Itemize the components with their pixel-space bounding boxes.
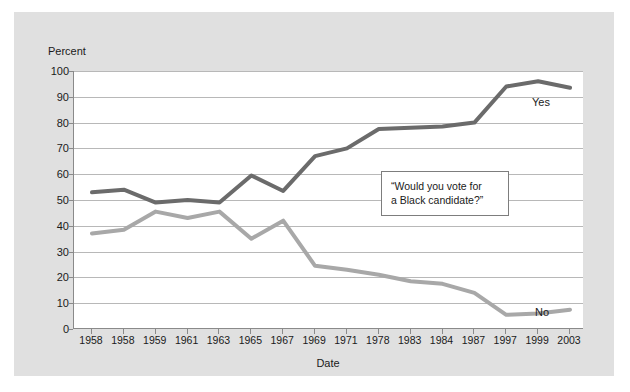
x-axis-tick-mark	[537, 329, 538, 334]
y-axis-tick-label: 100	[41, 65, 69, 77]
series-label-yes: Yes	[532, 96, 550, 108]
y-axis-tick-label: 0	[41, 323, 69, 335]
x-axis-tick-label: 1984	[430, 334, 453, 346]
y-axis-tick-label: 30	[41, 246, 69, 258]
x-axis-tick-label: 1958	[111, 334, 134, 346]
x-axis-tick-mark	[314, 329, 315, 334]
y-axis-tick-label: 10	[41, 297, 69, 309]
x-axis-tick-mark	[505, 329, 506, 334]
x-axis-tick-mark	[473, 329, 474, 334]
y-axis-tick-label: 40	[41, 220, 69, 232]
x-axis-tick-label: 1963	[207, 334, 230, 346]
annotation-line-2: a Black candidate?”	[391, 193, 499, 207]
x-axis-tick-mark	[218, 329, 219, 334]
series-label-no: No	[535, 306, 549, 318]
x-axis-tick-label: 1969	[302, 334, 325, 346]
x-axis-tick-mark	[378, 329, 379, 334]
x-axis-title: Date	[73, 357, 583, 369]
x-axis-tick-mark	[282, 329, 283, 334]
annotation-survey-question: “Would you vote for a Black candidate?”	[381, 171, 509, 216]
x-axis-tick-label: 1978	[366, 334, 389, 346]
y-axis-tick-label: 80	[41, 117, 69, 129]
x-axis-tick-mark	[569, 329, 570, 334]
x-axis-tick-label: 1965	[239, 334, 262, 346]
y-axis-tick-label: 90	[41, 91, 69, 103]
x-axis-tick-label: 1967	[271, 334, 294, 346]
chart-figure-panel: Percent 0102030405060708090100 195819581…	[14, 12, 614, 376]
x-axis-tick-mark	[155, 329, 156, 334]
x-axis-tick-label: 1961	[175, 334, 198, 346]
x-axis-tick-mark	[250, 329, 251, 334]
x-axis-tick-mark	[442, 329, 443, 334]
x-axis-tick-mark	[346, 329, 347, 334]
x-axis-tick-mark	[123, 329, 124, 334]
x-axis-tick-label: 1987	[462, 334, 485, 346]
y-axis-title: Percent	[48, 45, 86, 57]
x-axis-tick-label: 1958	[79, 334, 102, 346]
x-axis-tick-labels: 1958195819591961196319651967196919711978…	[73, 334, 583, 354]
y-axis-tick-label: 70	[41, 142, 69, 154]
y-axis-tick-label: 20	[41, 271, 69, 283]
x-axis-tick-label: 1999	[525, 334, 548, 346]
y-axis-tick-labels: 0102030405060708090100	[39, 71, 69, 329]
annotation-line-1: “Would you vote for	[391, 179, 499, 193]
x-axis-tick-label: 1983	[398, 334, 421, 346]
x-axis-tick-label: 2003	[557, 334, 580, 346]
x-axis-tick-mark	[187, 329, 188, 334]
x-axis-tick-label: 1959	[143, 334, 166, 346]
x-axis-tick-mark	[410, 329, 411, 334]
y-axis-tick-label: 50	[41, 194, 69, 206]
y-axis-tick-label: 60	[41, 168, 69, 180]
y-axis-tick-mark	[69, 329, 73, 330]
x-axis-tick-mark	[91, 329, 92, 334]
x-axis-tick-label: 1971	[334, 334, 357, 346]
x-axis-tick-label: 1997	[494, 334, 517, 346]
series-line-no	[92, 212, 570, 315]
